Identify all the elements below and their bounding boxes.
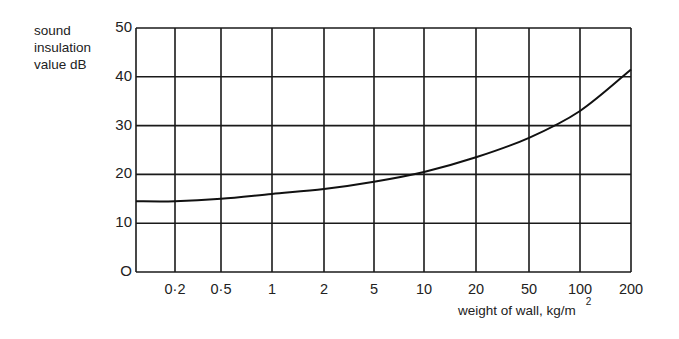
y-axis-label-line-3: value dB — [34, 56, 91, 73]
x-tick-label: 2 — [304, 281, 344, 297]
grid-lines — [136, 28, 631, 272]
x-axis-label: weight of wall, kg/m2 — [458, 300, 591, 318]
x-tick-label: 10 — [404, 281, 444, 297]
x-tick-label: 5 — [354, 281, 394, 297]
y-axis-label: sound insulation value dB — [34, 22, 91, 73]
x-tick-label: 0·5 — [201, 281, 241, 297]
x-tick-label: 20 — [456, 281, 496, 297]
y-tick-label: 50 — [102, 18, 132, 35]
y-tick-label: 10 — [102, 213, 132, 230]
x-axis-label-superscript: 2 — [586, 296, 592, 307]
x-tick-label: 1 — [252, 281, 292, 297]
y-axis-label-line-1: sound — [34, 22, 91, 39]
x-tick-label: 0·2 — [155, 281, 195, 297]
y-tick-label: 30 — [102, 116, 132, 133]
y-tick-label: 40 — [102, 67, 132, 84]
x-tick-label: 50 — [509, 281, 549, 297]
y-tick-label: O — [102, 262, 132, 279]
y-tick-label: 20 — [102, 164, 132, 181]
x-axis-label-text: weight of wall, kg/m — [458, 303, 576, 318]
x-tick-label: 100 — [560, 281, 600, 297]
x-tick-label: 200 — [611, 281, 651, 297]
y-axis-label-line-2: insulation — [34, 39, 91, 56]
data-curve — [136, 69, 631, 201]
